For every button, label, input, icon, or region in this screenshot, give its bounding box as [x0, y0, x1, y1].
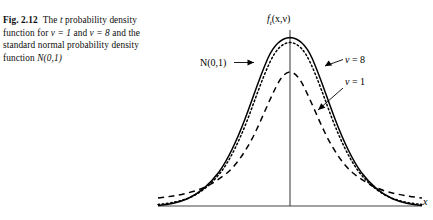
annotation-label-normal: N(0,1): [200, 57, 226, 69]
annotation-nu1-eq: = 1: [349, 76, 365, 87]
caption-line4: normal probability density: [38, 40, 139, 50]
caption-line5-a: function: [3, 53, 37, 63]
annotation-label-nu8: ν = 8: [345, 54, 365, 65]
figure-plot-area: ft(x,ν) x N(0,1) ν = 8 ν = 1: [155, 0, 433, 220]
x-axis-label: x: [422, 196, 428, 207]
figure-caption: Fig. 2.12The t probability density funct…: [3, 14, 153, 64]
caption-nu-eq-1: ν = 1: [51, 28, 71, 38]
annotation-label-nu1: ν = 1: [345, 76, 365, 87]
arrowhead-normal: [248, 60, 255, 66]
arrowhead-nu8: [325, 61, 332, 66]
annotation-nu8-eq: = 8: [349, 54, 365, 65]
figure-number: Fig. 2.12: [3, 15, 38, 25]
caption-normal-notation: N(0,1): [37, 53, 62, 63]
y-axis-label: ft(x,ν): [267, 13, 290, 27]
y-axis-label-args: (x,ν): [272, 13, 291, 25]
caption-nu-eq-8: ν = 8: [90, 28, 110, 38]
caption-text-b: probability: [63, 15, 107, 25]
caption-line3-a: and: [73, 28, 87, 38]
density-plot-svg: ft(x,ν) x N(0,1) ν = 8 ν = 1: [155, 0, 433, 220]
caption-text-a: The: [43, 15, 60, 25]
